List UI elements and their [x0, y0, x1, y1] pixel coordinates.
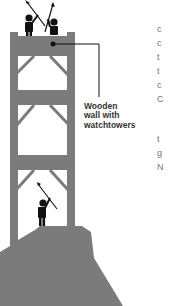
watchtower-illustration — [0, 0, 170, 306]
cutoff-char: c — [157, 36, 164, 50]
guard-figure-bottom — [37, 182, 57, 226]
earth-mound — [0, 226, 123, 306]
callout-label-line: watchtowers — [84, 121, 136, 130]
cutoff-text-column-bottom: t g N — [157, 132, 164, 174]
cross-braces — [16, 56, 69, 191]
callout-label: Wooden wall with watchtowers — [84, 102, 136, 130]
guard-figure-right — [45, 2, 58, 35]
cutoff-char: c — [157, 22, 164, 36]
cutoff-char: N — [157, 160, 164, 174]
cutoff-char: t — [157, 50, 164, 64]
cutoff-char: t — [157, 64, 164, 78]
cutoff-char: C — [157, 92, 164, 106]
cutoff-char: g — [157, 146, 164, 160]
cutoff-char: t — [157, 132, 164, 146]
guard-figure-left — [25, 0, 45, 36]
cutoff-text-column-top: c c t t c C — [157, 22, 164, 106]
cutoff-char: c — [157, 78, 164, 92]
